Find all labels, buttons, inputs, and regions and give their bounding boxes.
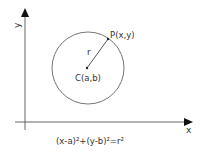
point-label: P(x,y) <box>110 30 135 40</box>
radius-label: r <box>87 47 91 57</box>
center-point <box>86 67 88 69</box>
center-label: C(a,b) <box>75 73 101 83</box>
x-axis <box>15 118 193 126</box>
y-axis-arrow-icon <box>21 8 29 17</box>
equation-label: (x-a)²+(y-b)²=r² <box>56 136 124 146</box>
x-axis-label: x <box>186 125 192 135</box>
circle-point <box>107 38 109 40</box>
circle-diagram: y x r C(a,b) P(x,y) (x-a)²+(y-b)²=r² <box>0 0 205 160</box>
y-axis-label: y <box>12 22 22 28</box>
y-axis <box>21 8 29 130</box>
